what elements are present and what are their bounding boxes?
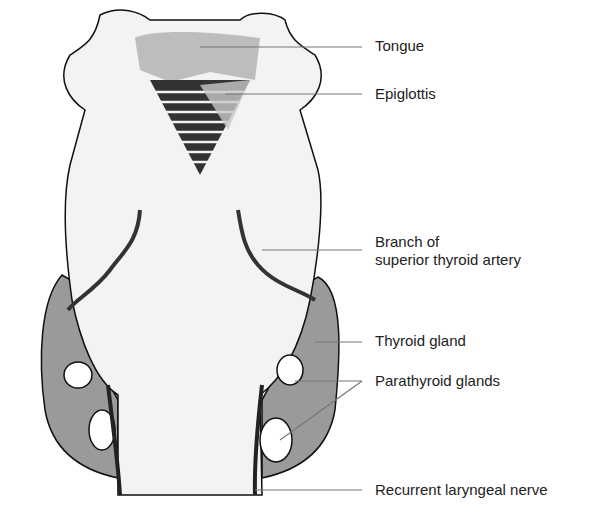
label-recurrent-laryngeal-nerve: Recurrent laryngeal nerve [375,481,548,499]
label-thyroid-gland: Thyroid gland [375,332,466,350]
label-parathyroid-glands: Parathyroid glands [375,372,500,390]
label-branch-line2: superior thyroid artery [375,251,521,269]
tongue-shape [135,32,260,82]
label-epiglottis: Epiglottis [375,85,436,103]
parathyroid-upper-left [64,362,92,388]
larynx-illustration [0,0,615,523]
label-branch-line1: Branch of [375,233,521,251]
parathyroid-lower-right [260,418,292,462]
label-tongue: Tongue [375,37,424,55]
label-branch-superior-thyroid-artery: Branch of superior thyroid artery [375,233,521,269]
